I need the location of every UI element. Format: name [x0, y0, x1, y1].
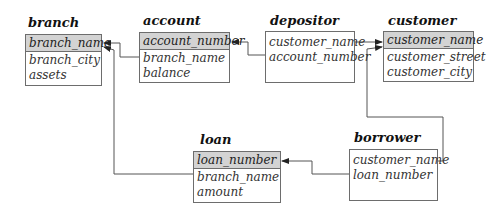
attribute: customer_name [266, 35, 354, 50]
table-customer: customer_name customer_street customer_c… [383, 31, 474, 82]
attribute: assets [26, 68, 101, 83]
attribute: amount [194, 185, 280, 200]
attribute: branch_city [26, 53, 101, 68]
attribute: customer_name [350, 153, 437, 168]
attribute: balance [140, 66, 229, 81]
attribute: customer_street [384, 50, 473, 65]
table-borrower: customer_name loan_number [349, 149, 438, 201]
attribute: customer_city [384, 65, 473, 80]
table-loan: loan_number branch_name amount [193, 151, 281, 203]
table-title-loan: loan [200, 133, 231, 147]
attribute: loan_number [350, 168, 437, 183]
table-title-branch: branch [28, 16, 79, 30]
attribute: branch_name [140, 51, 229, 66]
fk-borrower-loan [282, 161, 349, 174]
table-account: account_number branch_name balance [139, 32, 230, 83]
primary-key: account_number [140, 33, 229, 50]
table-branch: branch_name branch_city assets [25, 34, 102, 86]
table-title-customer: customer [388, 14, 456, 28]
primary-key: loan_number [194, 152, 280, 169]
table-depositor: customer_name account_number [265, 31, 355, 83]
table-title-depositor: depositor [270, 14, 339, 28]
table-title-borrower: borrower [354, 131, 420, 145]
table-title-account: account [143, 14, 201, 28]
attribute: account_number [266, 50, 354, 65]
primary-key: branch_name [26, 35, 101, 52]
attribute: branch_name [194, 170, 280, 185]
primary-key: customer_name [384, 32, 473, 49]
